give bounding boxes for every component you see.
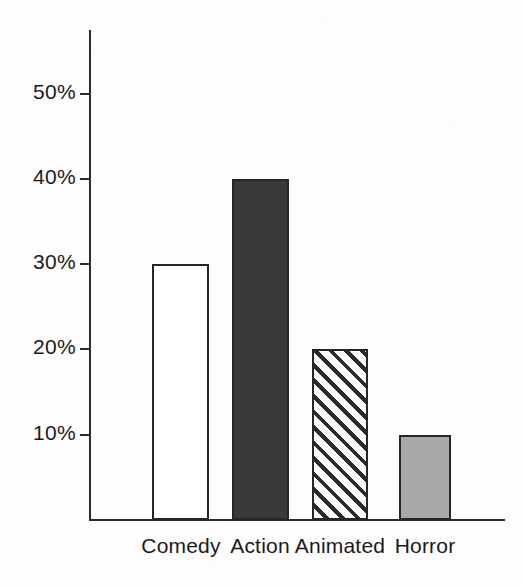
y-axis-tick-label: 40% [4, 165, 76, 189]
bar-animated [312, 349, 368, 520]
y-axis-tick [80, 178, 90, 180]
y-axis-tick-label: 20% [4, 335, 76, 359]
plot-area: 10%20%30%40%50% ComedyActionAnimatedHorr… [0, 0, 523, 586]
y-axis-line [89, 30, 91, 521]
bar-action [232, 179, 289, 520]
y-axis-tick-label: 50% [4, 80, 76, 104]
x-axis-label-horror: Horror [365, 534, 485, 558]
y-axis-tick [80, 348, 90, 350]
bar-chart: 10%20%30%40%50% ComedyActionAnimatedHorr… [0, 0, 523, 586]
y-axis-tick-label: 30% [4, 250, 76, 274]
y-axis-tick [80, 434, 90, 436]
bar-comedy [152, 264, 209, 520]
y-axis-tick [80, 93, 90, 95]
y-axis-tick [80, 263, 90, 265]
bar-horror [399, 435, 451, 520]
y-axis-tick-label: 10% [4, 421, 76, 445]
